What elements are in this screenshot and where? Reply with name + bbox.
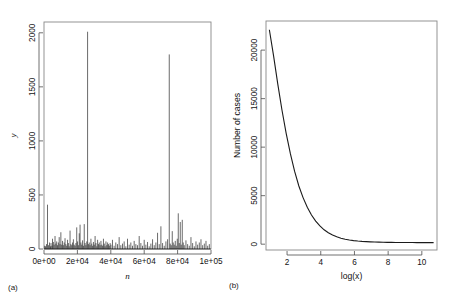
spike-series: [45, 32, 210, 249]
x-tick-label: 8: [386, 258, 391, 267]
y-tick-label: 1500: [28, 77, 37, 96]
panel-b-plot: 05000100001500020000246810log(x)Number o…: [226, 0, 453, 306]
panel-b: 05000100001500020000246810log(x)Number o…: [226, 0, 453, 306]
x-tick-label: 6: [352, 258, 357, 267]
x-axis: 0e+002e+044e+046e+048e+041e+05: [33, 250, 223, 266]
y-tick-label: 0: [28, 246, 37, 251]
decay-curve: [269, 30, 433, 243]
x-tick-label: 8e+04: [166, 257, 189, 266]
x-tick-label: 4: [318, 258, 323, 267]
x-tick-label: 2e+04: [66, 257, 89, 266]
y-axis: 0500100015002000: [28, 23, 43, 251]
x-tick-label: 0e+00: [33, 257, 56, 266]
x-tick-label: 10: [417, 258, 427, 267]
x-axis-title: log(x): [341, 271, 363, 281]
y-tick-label: 2000: [28, 23, 37, 42]
x-tick-label: 4e+04: [99, 257, 122, 266]
x-tick-label: 1e+05: [200, 257, 223, 266]
y-tick-label: 500: [28, 188, 37, 202]
x-axis-title: n: [125, 271, 130, 281]
panel-a: 05001000150020000e+002e+044e+046e+048e+0…: [0, 0, 226, 306]
panel-a-plot: 05001000150020000e+002e+044e+046e+048e+0…: [0, 0, 226, 306]
x-tick-label: 2: [285, 258, 290, 267]
y-tick-label: 20000: [250, 38, 259, 61]
y-axis: 05000100001500020000: [250, 38, 265, 246]
y-axis-title: y: [8, 134, 18, 139]
y-tick-label: 1000: [28, 131, 37, 150]
panel-a-caption: (a): [8, 283, 18, 292]
panel-b-caption: (b): [229, 281, 239, 290]
x-axis: 246810: [285, 251, 427, 267]
figure-two-panel: 05001000150020000e+002e+044e+046e+048e+0…: [0, 0, 453, 306]
y-axis-title: Number of cases: [232, 93, 242, 158]
y-tick-label: 0: [250, 241, 259, 246]
y-tick-label: 15000: [250, 87, 259, 110]
y-tick-label: 5000: [250, 186, 259, 205]
y-tick-label: 10000: [250, 135, 259, 158]
x-tick-label: 6e+04: [133, 257, 156, 266]
